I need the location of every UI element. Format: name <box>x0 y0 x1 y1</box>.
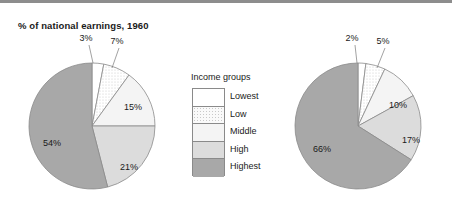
legend-label-middle: Middle <box>230 123 290 141</box>
legend: Income groups LowestLowMiddleHighHighest <box>190 72 285 86</box>
legend-swatch-middle <box>193 124 224 142</box>
value-label-middle: 10% <box>389 100 407 110</box>
value-label-lowest: 3% <box>79 33 92 43</box>
legend-label-list: LowestLowMiddleHighHighest <box>230 88 290 176</box>
value-label-lowest: 2% <box>345 33 358 43</box>
legend-label-high: High <box>230 141 290 159</box>
value-label-high: 21% <box>120 162 138 172</box>
value-label-high: 17% <box>402 135 420 145</box>
leader-line-low <box>377 48 385 68</box>
value-label-low: 7% <box>110 36 123 46</box>
leader-line-lowest <box>89 45 93 63</box>
leader-line-lowest <box>355 45 357 63</box>
legend-label-highest: Highest <box>230 158 290 176</box>
pie-1980 <box>295 63 421 189</box>
legend-label-lowest: Lowest <box>230 88 290 106</box>
legend-swatch-high <box>193 142 224 160</box>
legend-swatch-box <box>192 88 225 176</box>
legend-label-low: Low <box>230 106 290 124</box>
legend-swatch-low <box>193 107 224 125</box>
value-label-highest: 54% <box>43 138 61 148</box>
legend-title: Income groups <box>191 72 285 82</box>
pie-charts-canvas: 3%7%15%21%54%2%5%10%17%66% <box>0 0 452 216</box>
legend-swatch-highest <box>193 159 224 177</box>
value-label-low: 5% <box>376 36 389 46</box>
value-label-middle: 15% <box>124 102 142 112</box>
leader-line-low <box>112 48 119 68</box>
value-label-highest: 66% <box>313 144 331 154</box>
label-leader-lines <box>89 45 385 68</box>
legend-swatch-lowest <box>193 89 224 107</box>
